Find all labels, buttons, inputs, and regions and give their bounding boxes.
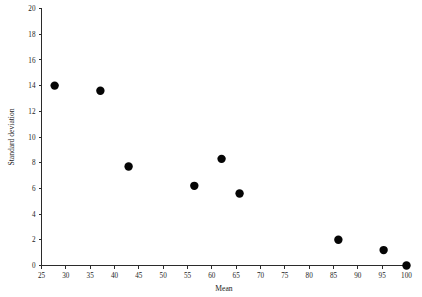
x-tick-label: 25	[38, 272, 46, 280]
y-tick-label: 8	[32, 159, 36, 167]
x-tick-label: 30	[62, 272, 70, 280]
y-tick-label: 10	[28, 134, 36, 142]
x-tick-label: 60	[208, 272, 216, 280]
y-tick-label: 18	[28, 31, 36, 39]
y-tick-label: 16	[28, 57, 36, 65]
x-tick-label: 85	[330, 272, 338, 280]
y-tick-label: 14	[28, 82, 36, 90]
x-tick-label: 55	[184, 272, 192, 280]
data-point	[379, 246, 387, 254]
x-tick-label: 90	[354, 272, 362, 280]
y-tick-label: 0	[32, 262, 36, 270]
scatter-plot-figure: 2530354045505560657075808590951000246810…	[0, 0, 422, 297]
x-tick-label: 40	[111, 272, 119, 280]
data-point	[124, 162, 132, 170]
x-tick-label: 50	[160, 272, 168, 280]
data-point	[190, 182, 198, 190]
x-tick-label: 65	[233, 272, 241, 280]
x-tick-label: 95	[379, 272, 387, 280]
y-tick-label: 12	[28, 108, 36, 116]
data-point	[217, 155, 225, 163]
data-point	[402, 261, 410, 269]
y-tick-label: 6	[32, 185, 36, 193]
plot-canvas: 2530354045505560657075808590951000246810…	[0, 0, 422, 297]
x-tick-label: 100	[401, 272, 412, 280]
x-tick-label: 35	[87, 272, 95, 280]
x-tick-label: 45	[135, 272, 143, 280]
data-point	[334, 236, 342, 244]
data-point	[96, 87, 104, 95]
x-tick-label: 70	[257, 272, 265, 280]
y-tick-label: 4	[32, 211, 36, 219]
x-tick-label: 75	[281, 272, 289, 280]
x-tick-label: 80	[306, 272, 314, 280]
y-axis-title: Standard deviation	[7, 108, 16, 165]
data-point	[235, 189, 243, 197]
y-tick-label: 20	[28, 5, 36, 13]
y-tick-label: 2	[32, 236, 36, 244]
x-axis-title: Mean	[215, 284, 232, 293]
data-point	[50, 81, 58, 89]
